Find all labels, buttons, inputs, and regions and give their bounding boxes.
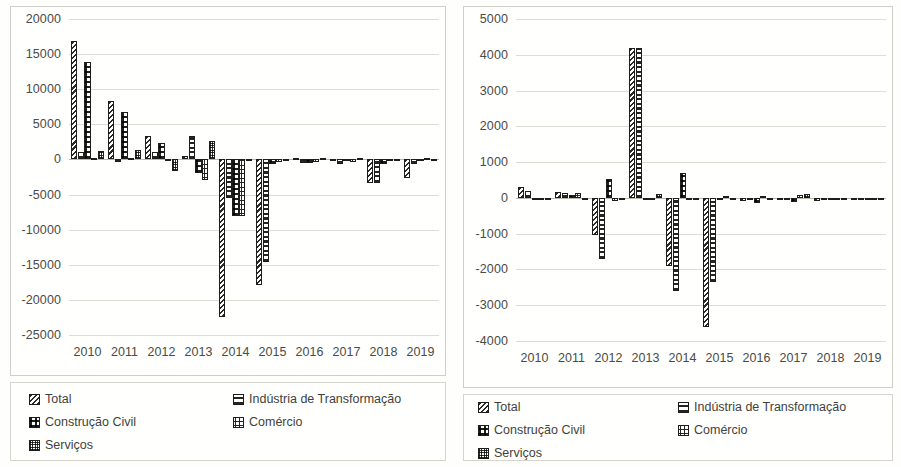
bar-total-2019	[404, 159, 410, 177]
bar-construcao-civil-2014	[680, 173, 686, 198]
x-axis-tick-label: 2019	[854, 351, 882, 365]
gridline	[516, 162, 886, 163]
gridline	[69, 230, 439, 231]
bar-total-2012	[145, 136, 151, 160]
gridline	[516, 341, 886, 342]
legend-item-label: Construção Civil	[494, 424, 585, 437]
x-axis-tick-label: 2019	[407, 345, 435, 359]
legend-item-construcao-civil[interactable]: Construção Civil	[29, 416, 136, 429]
bar-servicos-2018	[394, 159, 400, 161]
y-axis-tick-label: 20000	[26, 12, 61, 26]
y-axis-tick-label: -20000	[21, 293, 61, 307]
legend-item-total[interactable]: Total	[29, 393, 71, 406]
legend-item-label: Indústria de Transformação	[249, 393, 401, 406]
bar-construcao-civil-2017	[343, 159, 349, 161]
bar-construcao-civil-2012	[606, 179, 612, 198]
bar-industria-de-transformacao-2012	[152, 152, 158, 160]
bar-construcao-civil-2010	[532, 198, 538, 200]
gridline	[69, 89, 439, 90]
bar-total-2018	[367, 159, 373, 182]
bar-comercio-2015	[723, 196, 729, 198]
gridline	[516, 305, 886, 306]
legend-item-industria-de-transformacao[interactable]: Indústria de Transformação	[233, 393, 401, 406]
bar-total-2015	[256, 159, 262, 285]
bar-servicos-2015	[283, 159, 289, 161]
legend-swatch-icon	[29, 440, 40, 451]
bar-servicos-2013	[209, 141, 215, 160]
x-axis-tick-label: 2018	[370, 345, 398, 359]
legend-item-label: Indústria de Transformação	[694, 401, 846, 414]
bar-total-2019	[851, 198, 857, 201]
legend-item-total[interactable]: Total	[478, 401, 520, 414]
legend-item-servicos[interactable]: Serviços	[29, 439, 93, 452]
legend-swatch-icon	[233, 417, 244, 428]
legend-item-comercio[interactable]: Comércio	[678, 424, 748, 437]
bar-comercio-2016	[760, 196, 766, 198]
x-axis-tick-label: 2010	[74, 345, 102, 359]
y-axis-tick-label: -5000	[29, 188, 61, 202]
gridline	[69, 265, 439, 266]
bar-comercio-2010	[91, 158, 97, 160]
bar-servicos-2011	[135, 150, 141, 160]
legend-swatch-icon	[478, 448, 489, 459]
bar-servicos-2018	[841, 198, 847, 200]
gridline	[516, 91, 886, 92]
bar-industria-de-transformacao-2013	[189, 136, 195, 160]
legend-item-industria-de-transformacao[interactable]: Indústria de Transformação	[678, 401, 846, 414]
bar-total-2014	[219, 159, 225, 317]
bar-servicos-2012	[619, 198, 625, 200]
bar-construcao-civil-2016	[306, 159, 312, 163]
bar-total-2013	[629, 48, 635, 198]
bar-construcao-civil-2018	[828, 198, 834, 200]
bar-industria-de-transformacao-2019	[858, 198, 864, 200]
legend-item-construcao-civil[interactable]: Construção Civil	[478, 424, 585, 437]
bar-construcao-civil-2014	[232, 159, 238, 216]
bar-construcao-civil-2011	[121, 112, 127, 160]
legend-item-label: Total	[45, 393, 71, 406]
y-axis-tick-label: 3000	[480, 84, 508, 98]
bar-industria-de-transformacao-2018	[821, 198, 827, 200]
bar-construcao-civil-2019	[417, 159, 423, 161]
x-axis-tick-label: 2012	[595, 351, 623, 365]
bar-servicos-2016	[320, 158, 326, 160]
gridline	[69, 54, 439, 55]
chart-legend-left: TotalIndústria de TransformaçãoConstruçã…	[10, 382, 446, 461]
bar-total-2013	[182, 156, 188, 160]
bar-comercio-2011	[128, 158, 134, 160]
gridline	[69, 335, 439, 336]
bar-servicos-2010	[98, 151, 104, 160]
gridline	[69, 19, 439, 20]
bar-servicos-2015	[730, 198, 736, 200]
bar-construcao-civil-2013	[643, 198, 649, 200]
x-axis-tick-label: 2013	[185, 345, 213, 359]
x-axis-tick-label: 2017	[780, 351, 808, 365]
x-axis-tick-label: 2013	[632, 351, 660, 365]
x-axis-tick-label: 2015	[259, 345, 287, 359]
bar-industria-de-transformacao-2016	[300, 159, 306, 163]
x-axis-tick-label: 2015	[706, 351, 734, 365]
legend-item-comercio[interactable]: Comércio	[233, 416, 303, 429]
legend-item-servicos[interactable]: Serviços	[478, 447, 542, 460]
bar-comercio-2014	[686, 198, 692, 200]
bar-industria-de-transformacao-2010	[525, 191, 531, 198]
x-axis-tick-label: 2018	[817, 351, 845, 365]
bar-comercio-2013	[649, 198, 655, 200]
bar-comercio-2013	[202, 159, 208, 179]
bar-construcao-civil-2011	[569, 195, 575, 198]
bar-total-2011	[555, 192, 561, 198]
two-chart-figure: 20000150001000050000-5000-10000-15000-20…	[0, 0, 901, 467]
bar-comercio-2019	[871, 198, 877, 200]
bar-servicos-2019	[431, 159, 437, 161]
legend-swatch-icon	[29, 394, 40, 405]
bar-industria-de-transformacao-2017	[784, 198, 790, 200]
x-axis-tick-label: 2011	[558, 351, 585, 365]
bar-comercio-2012	[612, 198, 618, 201]
y-axis-tick-label: -10000	[21, 223, 61, 237]
bar-total-2014	[666, 198, 672, 266]
bar-comercio-2018	[387, 159, 393, 161]
y-axis-tick-label: 2000	[480, 119, 508, 133]
bar-servicos-2012	[172, 159, 178, 171]
chart-panel-right: 500040003000200010000-1000-2000-3000-400…	[455, 0, 901, 467]
bar-construcao-civil-2013	[195, 159, 201, 172]
bar-industria-de-transformacao-2014	[226, 159, 232, 198]
